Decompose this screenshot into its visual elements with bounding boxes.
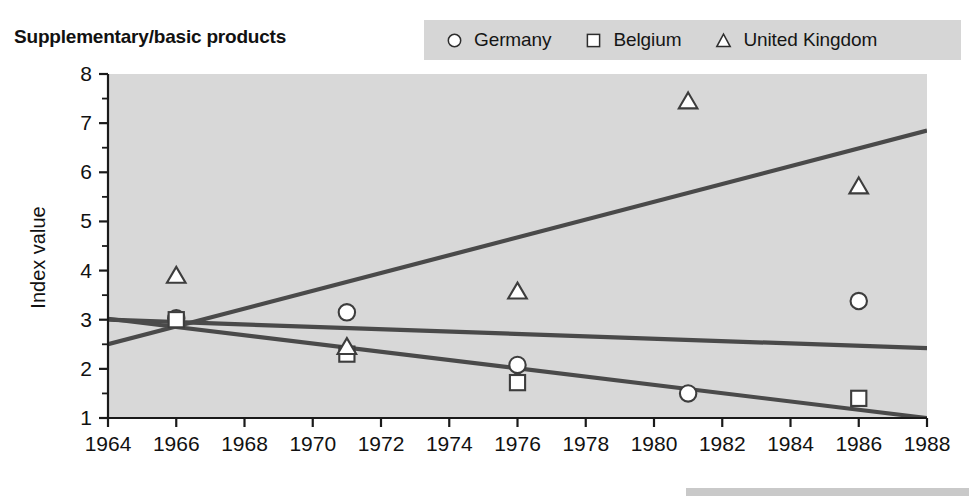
y-tick-label-5: 5 <box>58 209 92 233</box>
legend-item-united-kingdom: United Kingdom <box>715 29 877 51</box>
datapoint-belgium-1966 <box>169 312 184 327</box>
datapoint-germany-1986 <box>851 293 867 309</box>
x-tick-label-1976: 1976 <box>494 432 541 456</box>
x-tick-label-1986: 1986 <box>835 432 882 456</box>
y-tick-label-1: 1 <box>58 406 92 430</box>
x-tick-label-1966: 1966 <box>153 432 200 456</box>
datapoint-germany-1981 <box>680 385 696 401</box>
y-tick-label-2: 2 <box>58 357 92 381</box>
x-tick-label-1984: 1984 <box>767 432 814 456</box>
datapoint-belgium-1986 <box>851 391 866 406</box>
page-title: Supplementary/basic products <box>14 26 286 48</box>
datapoint-united-kingdom-1986 <box>849 177 868 193</box>
datapoint-united-kingdom-1976 <box>508 283 527 299</box>
datapoint-belgium-1976 <box>510 375 525 390</box>
x-tick-label-1970: 1970 <box>289 432 336 456</box>
legend-item-germany: Germany <box>446 29 551 51</box>
y-tick-label-4: 4 <box>58 259 92 283</box>
datapoint-united-kingdom-1966 <box>167 267 186 283</box>
x-tick-label-1988: 1988 <box>904 432 951 456</box>
circle-marker-icon <box>446 32 463 49</box>
x-tick-label-1982: 1982 <box>699 432 746 456</box>
footer-decoration-bar <box>686 488 969 496</box>
x-tick-label-1972: 1972 <box>358 432 405 456</box>
x-tick-label-1964: 1964 <box>85 432 132 456</box>
y-tick-label-7: 7 <box>58 111 92 135</box>
y-axis-label: Index value <box>27 158 50 358</box>
datapoint-germany-1976 <box>509 357 525 373</box>
figure-container: Supplementary/basic products Germany Bel… <box>0 0 969 501</box>
datapoint-germany-1971 <box>339 304 355 320</box>
y-tick-label-6: 6 <box>58 160 92 184</box>
legend-item-belgium: Belgium <box>585 29 681 51</box>
plot-canvas <box>108 74 927 418</box>
datapoint-group <box>167 92 868 406</box>
chart-legend: Germany Belgium United Kingdom <box>424 20 961 60</box>
x-tick-label-1978: 1978 <box>562 432 609 456</box>
y-tick-label-3: 3 <box>58 308 92 332</box>
legend-label-united-kingdom: United Kingdom <box>743 29 877 51</box>
x-tick-label-1968: 1968 <box>221 432 268 456</box>
square-marker-icon <box>585 32 602 49</box>
legend-label-belgium: Belgium <box>613 29 681 51</box>
datapoint-united-kingdom-1981 <box>679 92 698 108</box>
x-tick-label-1974: 1974 <box>426 432 473 456</box>
plot-area <box>108 74 927 418</box>
legend-label-germany: Germany <box>474 29 551 51</box>
triangle-marker-icon <box>715 32 732 49</box>
y-tick-label-8: 8 <box>58 62 92 86</box>
trendline-united-kingdom <box>108 131 927 345</box>
x-tick-label-1980: 1980 <box>631 432 678 456</box>
